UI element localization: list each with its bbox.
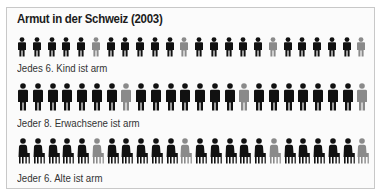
adult-figure-icon	[356, 83, 368, 115]
seated-elderly-figure-icon	[297, 138, 311, 168]
seated-elderly-figure-icon	[179, 138, 193, 168]
seated-elderly-figure-icon	[327, 138, 341, 168]
child-figure-icon	[283, 37, 293, 61]
seated-elderly-figure-icon	[224, 138, 238, 168]
adults-caption: Jeder 8. Erwachsene ist arm	[17, 117, 140, 129]
seated-elderly-figure-icon	[106, 138, 120, 168]
adult-figure-icon	[209, 83, 221, 115]
elderly-pictogram-row	[17, 138, 373, 166]
child-figure-icon	[61, 37, 71, 61]
child-figure-icon	[209, 37, 219, 61]
adult-figure-icon	[327, 83, 339, 115]
adult-figure-icon	[253, 83, 265, 115]
seated-elderly-figure-icon	[356, 138, 370, 168]
elderly-caption: Jeder 6. Alte ist arm	[17, 172, 103, 184]
adult-figure-icon	[179, 83, 191, 115]
chart-title: Armut in der Schweiz (2003)	[17, 11, 162, 26]
adults-pictogram-row	[17, 83, 373, 113]
child-figure-icon	[91, 37, 101, 61]
adult-figure-icon	[135, 83, 147, 115]
adult-figure-icon	[76, 83, 88, 115]
child-figure-icon	[120, 37, 130, 61]
child-figure-icon	[224, 37, 234, 61]
seated-elderly-figure-icon	[32, 138, 46, 168]
seated-elderly-figure-icon	[150, 138, 164, 168]
seated-elderly-figure-icon	[312, 138, 326, 168]
adult-figure-icon	[268, 83, 280, 115]
child-figure-icon	[342, 37, 352, 61]
adult-figure-icon	[238, 83, 250, 115]
child-figure-icon	[268, 37, 278, 61]
adult-figure-icon	[224, 83, 236, 115]
child-figure-icon	[297, 37, 307, 61]
child-figure-icon	[179, 37, 189, 61]
adult-figure-icon	[283, 83, 295, 115]
child-figure-icon	[150, 37, 160, 61]
adult-figure-icon	[61, 83, 73, 115]
child-figure-icon	[312, 37, 322, 61]
seated-elderly-figure-icon	[268, 138, 282, 168]
kids-caption: Jedes 6. Kind ist arm	[17, 62, 107, 74]
seated-elderly-figure-icon	[120, 138, 134, 168]
seated-elderly-figure-icon	[342, 138, 356, 168]
adult-figure-icon	[32, 83, 44, 115]
child-figure-icon	[165, 37, 175, 61]
child-figure-icon	[76, 37, 86, 61]
adult-figure-icon	[47, 83, 59, 115]
seated-elderly-figure-icon	[165, 138, 179, 168]
adult-figure-icon	[120, 83, 132, 115]
child-figure-icon	[106, 37, 116, 61]
adult-figure-icon	[106, 83, 118, 115]
adult-figure-icon	[194, 83, 206, 115]
seated-elderly-figure-icon	[76, 138, 90, 168]
child-figure-icon	[135, 37, 145, 61]
child-figure-icon	[194, 37, 204, 61]
seated-elderly-figure-icon	[17, 138, 31, 168]
seated-elderly-figure-icon	[194, 138, 208, 168]
seated-elderly-figure-icon	[61, 138, 75, 168]
seated-elderly-figure-icon	[209, 138, 223, 168]
seated-elderly-figure-icon	[283, 138, 297, 168]
child-figure-icon	[32, 37, 42, 61]
adult-figure-icon	[342, 83, 354, 115]
child-figure-icon	[327, 37, 337, 61]
child-figure-icon	[238, 37, 248, 61]
adult-figure-icon	[297, 83, 309, 115]
adult-figure-icon	[165, 83, 177, 115]
kids-pictogram-row	[17, 37, 373, 61]
adult-figure-icon	[150, 83, 162, 115]
adult-figure-icon	[312, 83, 324, 115]
seated-elderly-figure-icon	[135, 138, 149, 168]
child-figure-icon	[47, 37, 57, 61]
child-figure-icon	[356, 37, 366, 61]
adult-figure-icon	[91, 83, 103, 115]
child-figure-icon	[17, 37, 27, 61]
seated-elderly-figure-icon	[47, 138, 61, 168]
seated-elderly-figure-icon	[253, 138, 267, 168]
adult-figure-icon	[17, 83, 29, 115]
seated-elderly-figure-icon	[238, 138, 252, 168]
seated-elderly-figure-icon	[91, 138, 105, 168]
child-figure-icon	[253, 37, 263, 61]
